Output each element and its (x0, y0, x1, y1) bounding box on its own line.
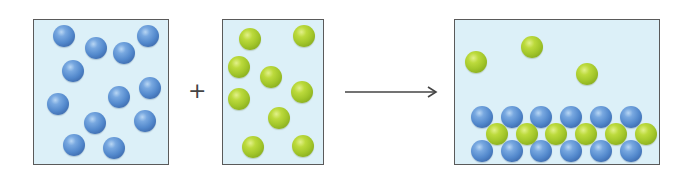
blue-particle-icon (47, 93, 69, 115)
lattice-blue-particle-icon (590, 140, 612, 162)
lattice-green-particle-icon (605, 123, 627, 145)
blue-particle-icon (103, 137, 125, 159)
green-particle-icon (292, 135, 314, 157)
blue-particle-icon (53, 25, 75, 47)
lattice-green-particle-icon (575, 123, 597, 145)
blue-particle-icon (108, 86, 130, 108)
lattice-blue-particle-icon (530, 140, 552, 162)
blue-particle-icon (134, 110, 156, 132)
lattice-blue-particle-icon (620, 140, 642, 162)
green-particle-icon (293, 25, 315, 47)
lattice-blue-particle-icon (471, 140, 493, 162)
blue-particle-icon (63, 134, 85, 156)
lattice-green-particle-icon (545, 123, 567, 145)
blue-particle-icon (113, 42, 135, 64)
free-green-particle-icon (576, 63, 598, 85)
green-particle-icon (268, 107, 290, 129)
green-particle-icon (242, 136, 264, 158)
lattice-blue-particle-icon (560, 140, 582, 162)
blue-particle-icon (139, 77, 161, 99)
blue-particle-icon (84, 112, 106, 134)
green-particle-icon (260, 66, 282, 88)
green-particle-icon (291, 81, 313, 103)
lattice-green-particle-icon (486, 123, 508, 145)
blue-particle-icon (85, 37, 107, 59)
free-green-particle-icon (465, 51, 487, 73)
green-particle-icon (239, 28, 261, 50)
free-green-particle-icon (521, 36, 543, 58)
plus-sign: + (188, 80, 206, 102)
blue-particle-icon (62, 60, 84, 82)
lattice-blue-particle-icon (501, 140, 523, 162)
lattice-green-particle-icon (635, 123, 657, 145)
reaction-arrow-icon (343, 84, 441, 100)
green-particle-icon (228, 56, 250, 78)
green-particle-icon (228, 88, 250, 110)
lattice-green-particle-icon (516, 123, 538, 145)
blue-particle-icon (137, 25, 159, 47)
